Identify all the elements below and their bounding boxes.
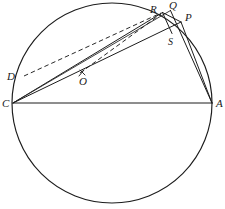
label-R: R [149, 3, 157, 15]
label-C: C [2, 97, 10, 109]
label-S: S [168, 36, 173, 47]
label-O: O [79, 75, 87, 87]
geometry-diagram: A C D O P Q R S [0, 0, 225, 209]
label-A: A [215, 97, 223, 109]
chord-CP [13, 22, 181, 103]
chord-QA [171, 11, 213, 104]
label-D: D [6, 70, 15, 82]
segment-OR-dashed [80, 14, 161, 73]
chord-PA [181, 22, 212, 103]
label-Q: Q [169, 0, 177, 11]
label-P: P [184, 11, 192, 23]
segment-DR-dashed [24, 13, 161, 76]
